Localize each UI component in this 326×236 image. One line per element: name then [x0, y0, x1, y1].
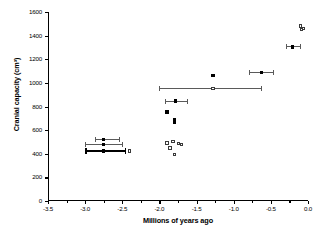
x-minor-tick-mark — [141, 201, 142, 203]
data-point-filled — [102, 143, 105, 146]
y-tick-mark — [45, 177, 48, 178]
data-point-open — [300, 28, 303, 31]
data-point-open — [180, 143, 183, 146]
x-tick-label: -3.5 — [33, 206, 63, 212]
error-bar-cap — [165, 99, 166, 104]
x-minor-tick-mark — [289, 201, 290, 203]
data-point-open — [165, 141, 168, 144]
y-tick-mark — [45, 107, 48, 108]
x-tick-label: -3.0 — [70, 206, 100, 212]
x-tick-label: -1.0 — [219, 206, 249, 212]
error-bar-cap — [187, 99, 188, 104]
x-minor-tick-mark — [252, 201, 253, 203]
x-minor-tick-mark — [178, 201, 179, 203]
data-point-filled — [174, 99, 177, 102]
scatter-chart: 02004006008001000120014001600 -3.5-3.0-2… — [0, 0, 326, 236]
error-bar-cap — [119, 137, 120, 142]
data-point-open — [173, 153, 176, 156]
x-tick-mark — [159, 201, 160, 204]
data-point-filled — [291, 45, 294, 48]
error-bar-cap — [300, 44, 301, 49]
y-tick-mark — [45, 12, 48, 13]
x-tick-mark — [271, 201, 272, 204]
error-bar-cap — [122, 142, 123, 147]
x-tick-label: 0.0 — [293, 206, 323, 212]
data-point-open — [211, 87, 214, 90]
x-tick-label: -1.5 — [182, 206, 212, 212]
x-tick-mark — [197, 201, 198, 204]
error-bar-cap — [261, 86, 262, 91]
data-point-filled — [211, 74, 214, 77]
error-bar-cap — [286, 44, 287, 49]
x-minor-tick-mark — [67, 201, 68, 203]
error-bar-cap — [249, 70, 250, 75]
x-tick-mark — [308, 201, 309, 204]
x-tick-mark — [85, 201, 86, 204]
x-minor-tick-mark — [215, 201, 216, 203]
data-point-filled — [102, 138, 105, 141]
y-tick-mark — [45, 130, 48, 131]
error-bar — [95, 139, 119, 140]
y-tick-mark — [45, 83, 48, 84]
x-tick-label: -2.0 — [144, 206, 174, 212]
x-tick-label: -0.5 — [256, 206, 286, 212]
y-tick-mark — [45, 154, 48, 155]
x-minor-tick-mark — [104, 201, 105, 203]
error-bar-cap — [85, 142, 86, 147]
x-axis-title: Millions of years ago — [48, 216, 308, 225]
data-point-open — [168, 146, 171, 149]
data-point-filled — [102, 149, 105, 152]
x-tick-label: -2.5 — [107, 206, 137, 212]
y-tick-mark — [45, 36, 48, 37]
x-tick-mark — [234, 201, 235, 204]
data-point-filled — [260, 71, 263, 74]
error-bar-cap — [85, 148, 87, 154]
y-axis-title: Cranial capacity (cm³) — [12, 15, 21, 175]
y-tick-mark — [45, 59, 48, 60]
data-point-filled — [165, 110, 168, 113]
error-bar-cap — [159, 86, 160, 91]
x-tick-mark — [122, 201, 123, 204]
x-tick-mark — [48, 201, 49, 204]
data-point-open — [128, 149, 131, 152]
data-point-filled — [173, 121, 176, 124]
error-bar-cap — [273, 70, 274, 75]
y-tick-label: 200 — [16, 174, 42, 180]
data-point-open — [171, 140, 174, 143]
y-tick-label: 0 — [16, 198, 42, 204]
error-bar-cap — [125, 148, 127, 154]
plot-area — [48, 12, 308, 201]
error-bar-cap — [95, 137, 96, 142]
